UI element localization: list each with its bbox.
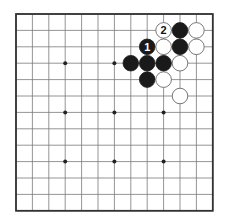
white-stone <box>156 72 172 88</box>
black-stone: 1 <box>139 39 155 55</box>
white-stone <box>172 88 188 104</box>
star-point <box>63 61 67 65</box>
star-point <box>112 61 116 65</box>
black-stone <box>123 55 139 71</box>
white-stone <box>189 39 205 55</box>
white-stone: 2 <box>156 23 172 39</box>
white-stone <box>172 55 188 71</box>
go-board: 21 <box>0 0 226 224</box>
star-point <box>63 160 67 164</box>
black-stone <box>156 55 172 71</box>
white-stone <box>156 39 172 55</box>
black-stone <box>172 39 188 55</box>
black-stone <box>172 23 188 39</box>
star-point <box>112 160 116 164</box>
move-number-label: 1 <box>144 41 150 53</box>
black-stone <box>139 72 155 88</box>
star-point <box>63 110 67 114</box>
white-stone <box>189 23 205 39</box>
star-point <box>162 160 166 164</box>
move-number-label: 2 <box>161 24 167 36</box>
star-point <box>112 110 116 114</box>
star-point <box>162 110 166 114</box>
black-stone <box>139 55 155 71</box>
